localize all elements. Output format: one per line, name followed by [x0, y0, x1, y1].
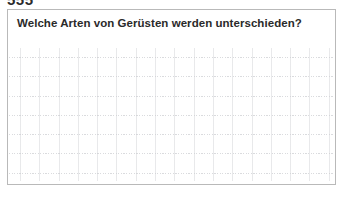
answer-writing-area[interactable] [9, 48, 334, 181]
question-answer-card: Welche Arten von Gerüsten werden untersc… [7, 9, 336, 185]
page-header-fragment: 555 [7, 0, 34, 7]
grid-horizontal-lines [9, 48, 334, 181]
question-title: Welche Arten von Gerüsten werden untersc… [17, 16, 327, 31]
